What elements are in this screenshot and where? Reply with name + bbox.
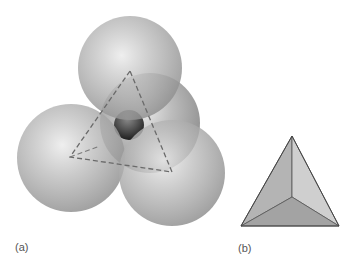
front-right-sphere: [119, 120, 225, 226]
panel-a-label: (a): [15, 241, 28, 253]
panel-b: [241, 136, 339, 226]
tetrahedral-void-figure: [0, 0, 360, 267]
top-sphere: [78, 16, 182, 120]
left-sphere: [17, 104, 125, 212]
panel-a: [17, 16, 225, 226]
panel-b-label: (b): [238, 242, 251, 254]
